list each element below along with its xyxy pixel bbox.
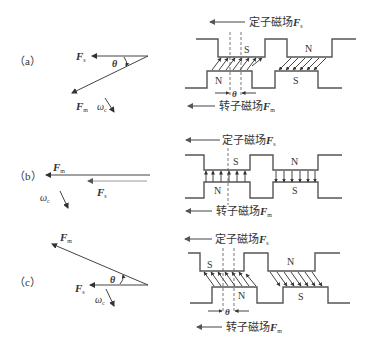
stator-vector-label: Fs bbox=[74, 282, 85, 295]
rotor-field-label: 转子磁场Fm bbox=[219, 99, 275, 113]
rotor-vector-arrow bbox=[52, 244, 148, 285]
stator-teeth-outline bbox=[196, 39, 356, 57]
rotor-pole-n: N bbox=[215, 75, 222, 86]
rotor-pole-s: S bbox=[293, 75, 299, 86]
air-gap-diagram-b: 定子磁场Fs S N N S bbox=[185, 133, 342, 218]
stator-pole-n: N bbox=[291, 156, 298, 167]
gap-theta-label: θ bbox=[232, 89, 237, 99]
panel-label-a: （a） bbox=[14, 55, 41, 67]
angle-arc bbox=[120, 275, 123, 284]
rotor-vector-label: Fm bbox=[52, 161, 65, 174]
stator-field-label: 定子磁场Fs bbox=[249, 15, 303, 29]
phasor-diagram-c: θ Fm Fs ωc bbox=[52, 231, 148, 306]
stator-pole-s: S bbox=[207, 259, 213, 270]
stator-teeth-outline bbox=[185, 155, 342, 170]
flux-lines-right bbox=[279, 58, 326, 70]
stator-vector-label: Fs bbox=[75, 50, 86, 63]
panel-a: （a） θ Fs Fm ωc 定子磁场Fs S N N S bbox=[14, 15, 356, 113]
rotor-field-label: 转子磁场Fm bbox=[226, 320, 282, 334]
rotor-teeth-outline bbox=[185, 182, 342, 198]
angle-arc bbox=[124, 57, 127, 66]
rotation-arrow bbox=[60, 191, 68, 208]
panel-label-b: （b） bbox=[14, 170, 42, 182]
flux-lines-right bbox=[276, 171, 315, 182]
stator-field-label: 定子磁场Fs bbox=[222, 133, 276, 147]
rotor-teeth-outline bbox=[185, 71, 342, 88]
flux-lines-left bbox=[204, 272, 256, 286]
rotation-arrow bbox=[106, 289, 114, 306]
speed-label: ωc bbox=[40, 192, 50, 204]
stator-pole-n: N bbox=[305, 43, 312, 54]
phasor-diagram-b: Fm Fs ωc bbox=[40, 161, 150, 208]
rotor-pole-n: N bbox=[238, 290, 245, 301]
rotor-pole-s: S bbox=[292, 185, 298, 196]
stator-vector-label: Fs bbox=[96, 186, 107, 199]
speed-label: ωc bbox=[95, 294, 105, 306]
air-gap-diagram-c: 定子磁场Fs S N N S bbox=[185, 232, 350, 334]
stator-pole-n: N bbox=[287, 256, 294, 267]
stator-pole-s: S bbox=[233, 156, 239, 167]
rotor-teeth-outline bbox=[190, 287, 350, 303]
phasor-diagram-a: θ Fs Fm ωc bbox=[72, 50, 148, 113]
synchronous-machine-field-diagram: （a） θ Fs Fm ωc 定子磁场Fs S N N S bbox=[0, 0, 370, 352]
air-gap-diagram-a: 定子磁场Fs S N N S bbox=[185, 15, 356, 113]
flux-lines-right bbox=[270, 272, 322, 286]
gap-theta-label: θ bbox=[225, 307, 230, 317]
rotor-pole-s: S bbox=[298, 291, 304, 302]
rotor-field-label: 转子磁场Fm bbox=[216, 204, 272, 218]
rotor-pole-n: N bbox=[214, 185, 221, 196]
rotor-vector-label: Fm bbox=[75, 100, 88, 113]
theta-label: θ bbox=[112, 58, 118, 69]
stator-pole-s: S bbox=[244, 44, 250, 55]
speed-label: ωc bbox=[97, 101, 107, 113]
flux-lines-left bbox=[206, 171, 245, 182]
panel-b: （b） Fm Fs ωc 定子磁场Fs S N N S bbox=[14, 133, 342, 218]
panel-label-c: （c） bbox=[14, 276, 41, 288]
theta-label: θ bbox=[110, 274, 116, 285]
panel-c: （c） θ Fm Fs ωc 定子磁场Fs S N N S bbox=[14, 231, 350, 334]
flux-lines-left bbox=[212, 58, 262, 70]
rotor-vector-label: Fm bbox=[59, 231, 72, 244]
stator-field-label: 定子磁场Fs bbox=[215, 232, 269, 246]
